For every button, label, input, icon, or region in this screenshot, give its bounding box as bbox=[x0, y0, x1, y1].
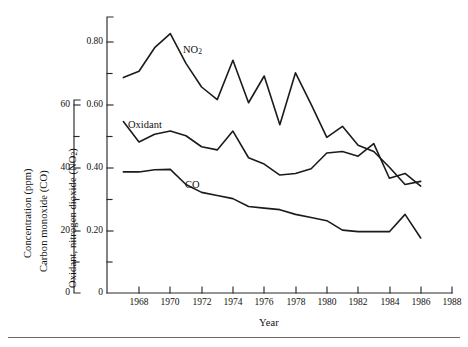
series-label-no2-subscript: 2 bbox=[198, 47, 202, 56]
series-label-co: CO bbox=[185, 179, 200, 190]
inner-axis-title-paren: ) bbox=[67, 148, 78, 152]
figure-container: Concentration (ppm) Carbon monoxide (CO)… bbox=[0, 0, 468, 347]
y-inner-tick-040: 0.40 bbox=[62, 162, 103, 172]
x-axis-title: Year bbox=[259, 317, 279, 328]
x-axis-title-text: Year bbox=[259, 317, 279, 328]
series-line-co bbox=[123, 169, 420, 238]
series-label-no2-text: NO bbox=[183, 44, 198, 55]
left-axis-title-line2: Carbon monoxide (CO) bbox=[38, 170, 49, 272]
y-inner-tick-020: 0.20 bbox=[62, 225, 103, 235]
x-tick-1988: 1988 bbox=[432, 297, 468, 307]
data-series-layer bbox=[123, 34, 420, 238]
left-axis-title-line1: Concentration (ppm) bbox=[22, 168, 33, 258]
x-axis-spine bbox=[107, 287, 452, 293]
inner-axis-spine bbox=[107, 17, 113, 293]
series-label-no2: NO2 bbox=[183, 44, 202, 56]
footer-rule bbox=[8, 337, 460, 338]
inner-axis-title-subscript: 2 bbox=[70, 152, 79, 156]
y-inner-tick-0: 0 bbox=[62, 287, 103, 297]
y-inner-tick-060: 0.60 bbox=[62, 99, 103, 109]
y-inner-tick-080: 0.80 bbox=[62, 36, 103, 46]
left-axis-title: Concentration (ppm) bbox=[22, 168, 33, 258]
left-axis-title-2: Carbon monoxide (CO) bbox=[38, 170, 49, 272]
series-line-no2 bbox=[123, 34, 420, 185]
series-label-oxidant: Oxidant bbox=[128, 119, 162, 130]
inner-axis-title-text: Oxidant, nitrogen dioxide (NO bbox=[67, 156, 78, 288]
